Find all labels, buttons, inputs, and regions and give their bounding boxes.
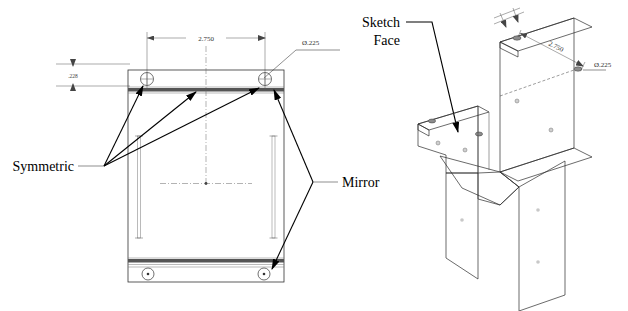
front-orthographic-view: 2.750 .228 Ø.225	[56, 32, 340, 282]
mirror-label: Mirror	[342, 175, 380, 190]
dimension-2750-front: 2.750	[147, 35, 265, 43]
front-hole-top-left	[141, 73, 154, 86]
iso-bottom-web	[440, 156, 519, 205]
dimension-2750-front-text: 2.750	[198, 35, 214, 43]
sketch-face-annotation: Sketch Face	[362, 15, 458, 132]
hole-diameter-leader-front: Ø.225	[264, 39, 340, 78]
symmetric-annotation: Symmetric	[13, 86, 259, 174]
iso-leg-right	[519, 161, 565, 311]
sketch-face-label-line2: Face	[374, 33, 400, 48]
sketch-face-label-line1: Sketch	[362, 15, 400, 30]
isometric-model-view: 2.750 Ø.225	[418, 8, 612, 311]
dimension-228-front: .228	[56, 60, 130, 90]
dimension-2750-iso: 2.750	[518, 30, 585, 70]
front-hole-bottom-right	[258, 268, 270, 280]
front-centerlines	[160, 46, 252, 185]
hole-diameter-leader-iso: Ø.225	[583, 61, 612, 70]
dimension-228-front-text: .228	[68, 73, 78, 79]
drawing-canvas: 2.750 .228 Ø.225	[0, 0, 628, 311]
front-side-edge-bars	[135, 136, 278, 238]
hole-diameter-iso-text: Ø.225	[594, 61, 612, 69]
front-hole-bottom-left	[142, 268, 154, 280]
symmetric-label: Symmetric	[13, 159, 74, 174]
front-hole-top-right	[259, 73, 272, 86]
iso-interior-edges	[478, 106, 519, 187]
mirror-annotation: Mirror	[272, 90, 380, 269]
iso-left-panel	[418, 106, 478, 173]
technical-drawing-svg: 2.750 .228 Ø.225	[0, 0, 628, 311]
iso-leg-left	[446, 173, 478, 279]
iso-back-panel	[500, 18, 574, 172]
iso-bottom-right-flange	[500, 148, 592, 181]
hole-diameter-front-text: Ø.225	[302, 39, 320, 47]
iso-small-dimension-leader	[494, 8, 524, 27]
